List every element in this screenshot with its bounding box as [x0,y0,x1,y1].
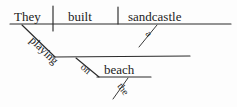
prep-article-word: the [115,81,131,98]
object-article-word: a [143,28,155,39]
sentence-diagram: They built sandcastle a playing on beach… [0,0,237,107]
prep-object-word: beach [104,62,135,77]
participle-word: playing [27,34,61,67]
sentence-diagram-canvas: They built sandcastle a playing on beach… [0,0,237,107]
subject-word: They [14,9,41,24]
verb-word: built [68,9,92,24]
direct-object-word: sandcastle [128,9,182,24]
preposition-word: on [79,61,94,76]
participle-baseline [53,56,190,57]
